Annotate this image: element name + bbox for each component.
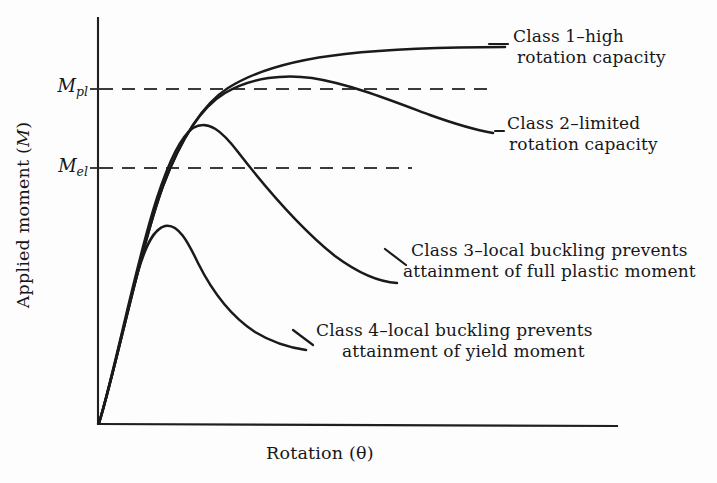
annotation-class-2-line1: Class 2–limited bbox=[507, 113, 640, 133]
y-tick-label-mel-subscript: el bbox=[77, 164, 88, 179]
curve-class-4 bbox=[99, 226, 306, 423]
y-tick-label-mel: Mel bbox=[0, 155, 88, 178]
curve-class-1 bbox=[99, 47, 505, 423]
x-axis-label: Rotation (θ) bbox=[0, 442, 640, 464]
annotation-class-4-line1: Class 4–local buckling prevents bbox=[316, 320, 593, 340]
y-tick-label-mpl: Mpl bbox=[0, 75, 88, 98]
y-axis-label-close: ) bbox=[13, 122, 33, 129]
annotation-class-1: Class 1–highrotation capacity bbox=[513, 26, 713, 69]
annotation-class-3-line1: Class 3–local buckling prevents bbox=[411, 240, 688, 260]
y-tick-label-mel-base: M bbox=[58, 155, 76, 176]
annotation-class-4: Class 4–local buckling preventsattainmen… bbox=[316, 320, 626, 363]
y-axis-label-container: Applied moment (M) bbox=[0, 0, 46, 430]
y-tick-label-mpl-base: M bbox=[58, 75, 76, 96]
annotation-class-2-line2: rotation capacity bbox=[507, 134, 712, 155]
x-axis-line bbox=[98, 424, 617, 426]
curve-class-3 bbox=[99, 125, 397, 423]
moment-rotation-chart: Applied moment (M) Rotation (θ) Mpl Mel … bbox=[0, 0, 717, 483]
y-axis-label: Applied moment (M) bbox=[13, 122, 33, 309]
annotation-class-1-line1: Class 1–high bbox=[513, 26, 624, 46]
leader-class-4 bbox=[293, 330, 313, 345]
annotation-class-1-line2: rotation capacity bbox=[513, 47, 713, 68]
y-axis-label-symbol: M bbox=[13, 129, 33, 147]
annotation-class-4-line2: attainment of yield moment bbox=[316, 341, 626, 362]
annotation-class-3: Class 3–local buckling preventsattainmen… bbox=[411, 240, 711, 283]
annotation-class-2: Class 2–limitedrotation capacity bbox=[507, 113, 712, 156]
y-tick-label-mpl-subscript: pl bbox=[76, 84, 88, 99]
annotation-class-3-line2: attainment of full plastic moment bbox=[411, 261, 711, 282]
